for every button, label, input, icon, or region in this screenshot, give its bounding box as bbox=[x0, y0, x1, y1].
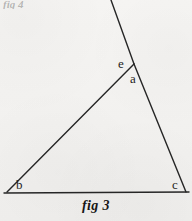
triangle-diagram bbox=[0, 0, 192, 221]
figure-canvas: fig 4 e a b c fig 3 bbox=[0, 0, 192, 221]
triangle-base-bc bbox=[4, 192, 189, 193]
extension-line-past-apex bbox=[111, 0, 134, 64]
angle-label-b: b bbox=[16, 178, 23, 191]
figure-caption: fig 3 bbox=[0, 198, 192, 214]
angle-label-c: c bbox=[172, 178, 178, 191]
triangle-side-ac bbox=[134, 64, 186, 192]
angle-label-a: a bbox=[130, 72, 136, 85]
triangle-side-ba bbox=[7, 64, 134, 192]
angle-label-e: e bbox=[118, 57, 124, 70]
